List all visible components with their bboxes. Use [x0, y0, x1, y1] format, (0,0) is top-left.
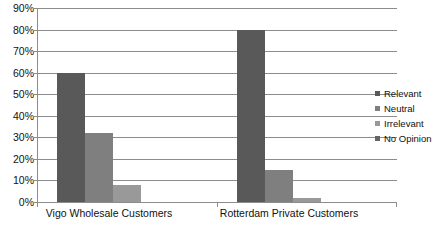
- y-axis-tick-label: 90%: [13, 3, 34, 14]
- legend-item[interactable]: Relevant: [375, 86, 442, 101]
- y-axis-line: [37, 8, 38, 203]
- y-axis-tick: [33, 94, 37, 95]
- chart-title: [180, 0, 442, 5]
- gridline: [37, 116, 397, 117]
- gridline: [37, 73, 397, 74]
- y-axis-tick-label: 30%: [13, 132, 34, 143]
- legend-swatch-icon: [375, 121, 380, 126]
- y-axis-tick: [33, 51, 37, 52]
- legend-swatch-icon: [375, 136, 380, 141]
- gridline: [37, 8, 397, 9]
- bar: [113, 185, 141, 202]
- y-axis-tick-label: 60%: [13, 67, 34, 78]
- y-axis-tick: [33, 116, 37, 117]
- y-axis-tick-label: 0%: [19, 197, 34, 208]
- x-axis-tick: [217, 203, 218, 207]
- bar-chart: 0%10%20%30%40%50%60%70%80%90% RelevantNe…: [0, 0, 442, 229]
- y-axis-tick-label: 20%: [13, 153, 34, 164]
- legend-label: Relevant: [384, 88, 422, 99]
- y-axis-tick: [33, 180, 37, 181]
- legend-swatch-icon: [375, 106, 380, 111]
- x-axis-category-label: Rotterdam Private Customers: [220, 207, 358, 219]
- legend-label: Irrelevant: [384, 118, 424, 129]
- legend-swatch-icon: [375, 91, 380, 96]
- legend-item[interactable]: Irrelevant: [375, 116, 442, 131]
- y-axis-tick: [33, 159, 37, 160]
- bar: [265, 170, 293, 202]
- y-axis-tick-label: 80%: [13, 24, 34, 35]
- plot-area: [37, 8, 397, 203]
- gridline: [37, 94, 397, 95]
- legend-item[interactable]: No Opinion: [375, 131, 442, 146]
- x-axis-tick: [396, 203, 397, 207]
- y-axis-tick: [33, 137, 37, 138]
- bar: [57, 73, 85, 202]
- gridline: [37, 30, 397, 31]
- chart-legend: RelevantNeutralIrrelevantNo Opinion: [375, 86, 442, 146]
- bar: [237, 30, 265, 202]
- y-axis-tick: [33, 30, 37, 31]
- legend-label: Neutral: [384, 103, 415, 114]
- y-axis-tick-label: 10%: [13, 175, 34, 186]
- bar: [85, 133, 113, 202]
- y-axis-tick-label: 70%: [13, 46, 34, 57]
- y-axis-tick: [33, 8, 37, 9]
- x-axis-tick: [37, 203, 38, 207]
- y-axis-tick-label: 50%: [13, 89, 34, 100]
- y-axis-tick: [33, 73, 37, 74]
- y-axis-tick-label: 40%: [13, 110, 34, 121]
- legend-label: No Opinion: [384, 133, 432, 144]
- gridline: [37, 51, 397, 52]
- bar: [293, 198, 321, 202]
- x-axis-category-label: Vigo Wholesale Customers: [46, 207, 172, 219]
- legend-item[interactable]: Neutral: [375, 101, 442, 116]
- y-axis-tick-labels: 0%10%20%30%40%50%60%70%80%90%: [0, 0, 34, 206]
